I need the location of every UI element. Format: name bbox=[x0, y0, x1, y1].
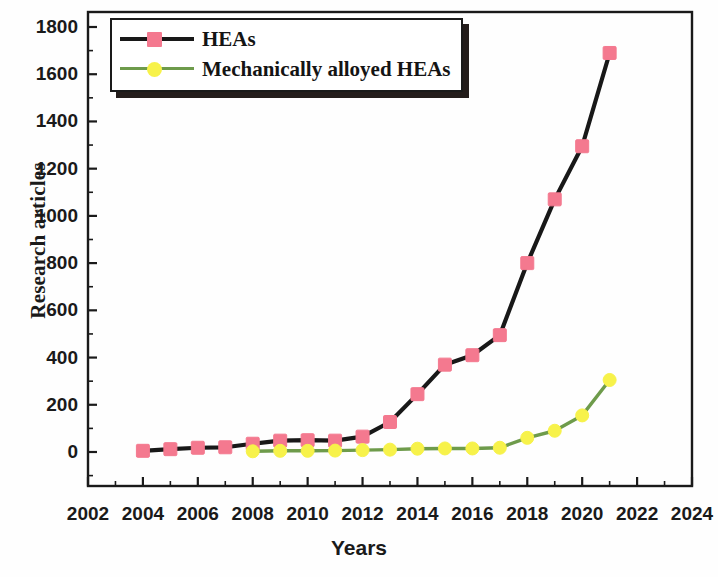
data-point-marker bbox=[274, 444, 287, 457]
chart-legend: HEAs Mechanically alloyed HEAs bbox=[110, 18, 463, 92]
data-point-marker bbox=[411, 388, 424, 401]
data-point-marker bbox=[246, 445, 259, 458]
data-point-marker bbox=[493, 329, 506, 342]
legend-item-heas: HEAs bbox=[120, 24, 451, 54]
data-point-marker bbox=[576, 409, 589, 422]
data-point-marker bbox=[466, 349, 479, 362]
data-point-marker bbox=[438, 442, 451, 455]
data-point-marker bbox=[164, 443, 177, 456]
data-series-layer bbox=[136, 46, 616, 457]
data-point-marker bbox=[603, 46, 616, 59]
legend-swatch-heas bbox=[120, 28, 194, 50]
chart-figure: Research articles Years 0200400600800100… bbox=[0, 0, 718, 577]
data-point-marker bbox=[219, 441, 232, 454]
data-point-marker bbox=[438, 358, 451, 371]
legend-item-mechanically-alloyed-heas: Mechanically alloyed HEAs bbox=[120, 54, 451, 84]
data-point-marker bbox=[521, 257, 534, 270]
data-point-marker bbox=[356, 444, 369, 457]
data-point-marker bbox=[329, 444, 342, 457]
data-point-marker bbox=[301, 444, 314, 457]
data-point-marker bbox=[493, 441, 506, 454]
data-point-marker bbox=[576, 140, 589, 153]
data-point-marker bbox=[603, 373, 616, 386]
data-point-marker bbox=[548, 193, 561, 206]
data-point-marker bbox=[136, 444, 149, 457]
data-point-marker bbox=[521, 431, 534, 444]
data-point-marker bbox=[384, 443, 397, 456]
legend-label-mechanically-alloyed-heas: Mechanically alloyed HEAs bbox=[202, 57, 451, 82]
legend-marker-circle-icon bbox=[147, 62, 162, 77]
series-heas bbox=[136, 46, 616, 457]
data-point-marker bbox=[356, 430, 369, 443]
legend-swatch-mechanically-alloyed-heas bbox=[120, 58, 194, 80]
data-point-marker bbox=[384, 416, 397, 429]
data-point-marker bbox=[466, 442, 479, 455]
legend-label-heas: HEAs bbox=[202, 27, 256, 52]
data-point-marker bbox=[191, 441, 204, 454]
data-point-marker bbox=[548, 424, 561, 437]
legend-marker-square-icon bbox=[147, 32, 162, 47]
data-point-marker bbox=[411, 442, 424, 455]
